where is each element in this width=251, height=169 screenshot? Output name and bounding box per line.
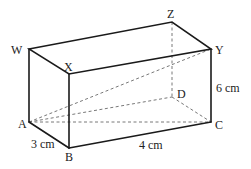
vertex-label-Y: Y xyxy=(215,43,224,57)
dimension-label-BC: 4 cm xyxy=(139,138,163,152)
vertex-label-A: A xyxy=(18,117,27,131)
vertex-label-W: W xyxy=(11,43,23,57)
cuboid-diagram: W X Y Z A B C D 3 cm 4 cm 6 cm xyxy=(0,0,251,169)
vertex-label-B: B xyxy=(65,150,73,164)
dimension-label-CY: 6 cm xyxy=(216,81,240,95)
top-face xyxy=(29,22,211,74)
vertex-label-Z: Z xyxy=(167,7,174,21)
vertex-label-X: X xyxy=(64,60,73,74)
vertex-label-C: C xyxy=(215,118,223,132)
edge-AD xyxy=(29,97,172,122)
diagonal-AY xyxy=(29,49,211,122)
dimension-label-AB: 3 cm xyxy=(31,137,55,151)
vertex-label-D: D xyxy=(177,87,186,101)
